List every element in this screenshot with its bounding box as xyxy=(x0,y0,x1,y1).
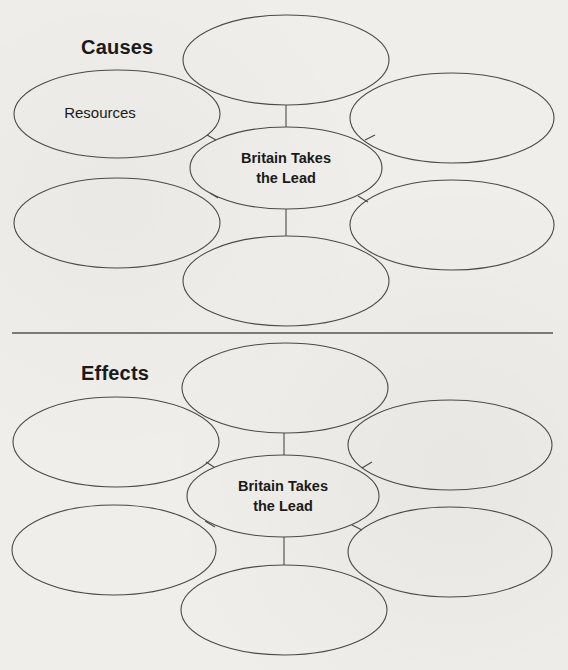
effects-node-bottom-left[interactable] xyxy=(19,510,209,590)
effects-node-top[interactable] xyxy=(190,348,380,428)
causes-node-bottom[interactable] xyxy=(191,241,381,321)
causes-node-bottom-left[interactable] xyxy=(22,183,212,263)
causes-node-top[interactable] xyxy=(191,20,381,100)
effects-center-label: Britain Takes the Lead xyxy=(238,476,328,516)
causes-node-top-right[interactable] xyxy=(357,78,547,158)
effects-node-bottom-right[interactable] xyxy=(355,512,545,592)
effects-node-bottom[interactable] xyxy=(189,570,379,650)
causes-center-label: Britain Takes the Lead xyxy=(241,148,331,188)
worksheet-page: Causes Britain Takes the Lead Resources … xyxy=(0,0,568,670)
causes-heading: Causes xyxy=(81,36,153,59)
causes-node-top-left-label[interactable]: Resources xyxy=(64,103,136,123)
causes-node-bottom-right[interactable] xyxy=(357,185,547,265)
effects-node-top-left[interactable] xyxy=(21,402,211,482)
effects-heading: Effects xyxy=(81,362,149,385)
effects-node-top-right[interactable] xyxy=(355,405,545,485)
